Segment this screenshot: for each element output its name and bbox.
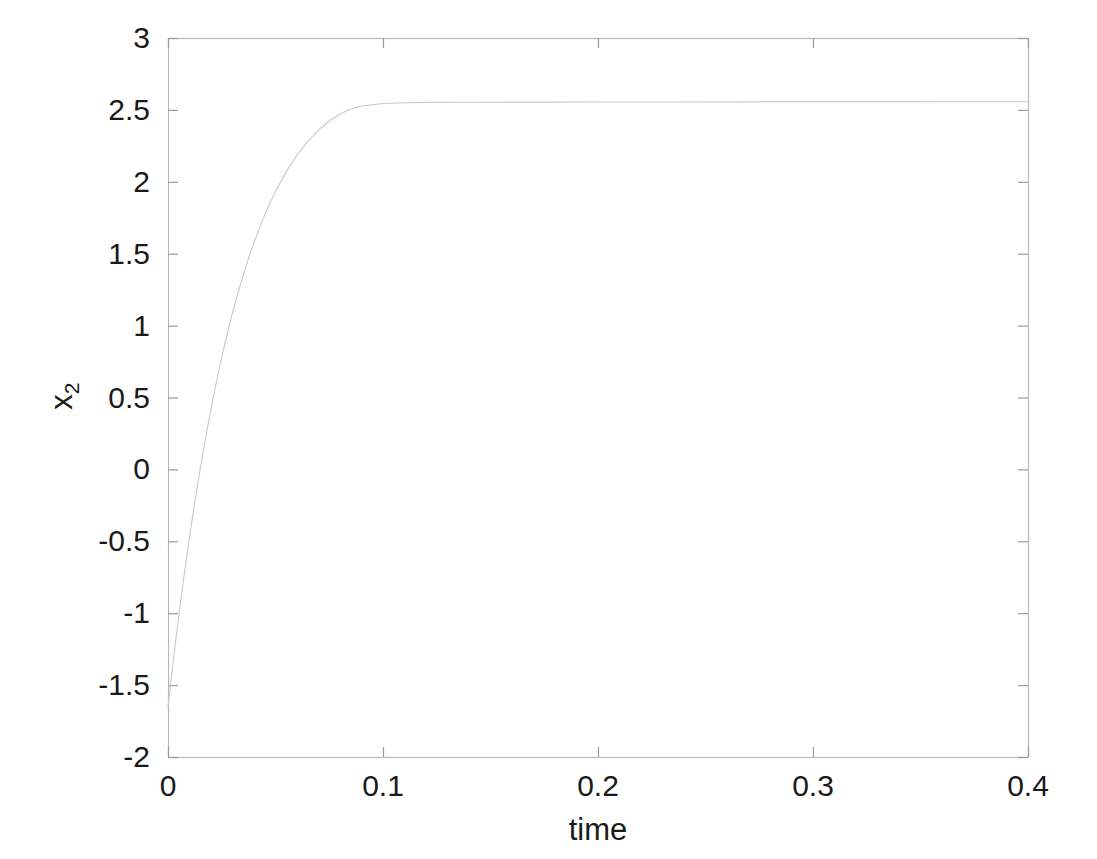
x-tick-label: 0.3 — [792, 769, 834, 803]
y-tick-label: 2 — [60, 165, 150, 199]
y-tick-label: -0.5 — [60, 524, 150, 558]
axes-frame — [169, 39, 1029, 758]
y-tick-label: -2 — [60, 740, 150, 774]
y-tick-label: 3 — [60, 21, 150, 55]
y-axis-label-base: x — [44, 394, 79, 410]
figure-canvas: -2-1.5-1-0.500.511.522.53 00.10.20.30.4 … — [0, 0, 1097, 859]
x-tick-label: 0.4 — [1007, 769, 1049, 803]
data-series-group — [168, 102, 1028, 707]
y-axis-label: x2 — [44, 336, 80, 456]
tick-marks — [168, 38, 1029, 758]
x-tick-label: 0.2 — [577, 769, 619, 803]
x-axis-label: time — [569, 812, 628, 848]
y-axis-label-subscript: 2 — [60, 382, 83, 394]
x-tick-label: 0 — [160, 769, 177, 803]
y-tick-label: -1.5 — [60, 668, 150, 702]
y-tick-label: 1.5 — [60, 237, 150, 271]
y-tick-label: -1 — [60, 596, 150, 630]
y-tick-label: 2.5 — [60, 93, 150, 127]
plot-area — [0, 0, 1097, 859]
x-tick-label: 0.1 — [362, 769, 404, 803]
y-tick-label: 0 — [60, 452, 150, 486]
